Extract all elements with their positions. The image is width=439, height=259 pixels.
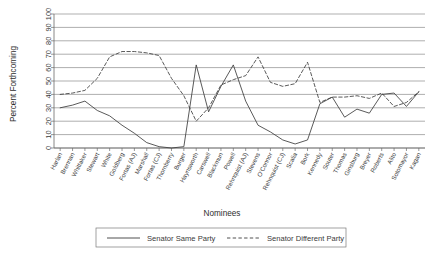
x-tick-label: Kagan (408, 151, 423, 171)
series-line-senator-different-party (60, 52, 419, 122)
x-tick-label: Scalia (284, 151, 298, 170)
chart-figure: Percent Forthcoming 01020304050607080901… (0, 0, 439, 259)
legend-label-same-party: Senator Same Party (147, 234, 216, 243)
x-axis-ticks (60, 148, 419, 151)
legend: Senator Same Party Senator Different Par… (96, 228, 346, 247)
legend-label-different-party: Senator Different Party (267, 234, 344, 243)
x-axis-tick-labels: HarlanBrennanWhittakerStewartWhiteGoldbe… (49, 150, 422, 191)
gridlines (51, 14, 425, 148)
y-axis-title: Percent Forthcoming (9, 46, 18, 122)
x-tick-label: Bork (299, 150, 311, 165)
y-axis-title-group: Percent Forthcoming (9, 46, 18, 122)
y-axis-tick-labels: 0102030405060708090100 (44, 8, 53, 150)
line-chart: Percent Forthcoming 01020304050607080901… (0, 0, 439, 259)
x-tick-label: Alito (385, 151, 397, 165)
x-axis-title: Nominees (204, 209, 241, 218)
